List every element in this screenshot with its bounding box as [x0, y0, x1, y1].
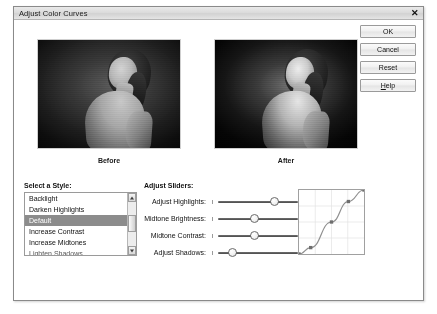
curve-control-point[interactable] — [347, 200, 350, 203]
slider-row-adjust-shadows: Adjust Shadows: — [144, 246, 304, 260]
style-listbox[interactable]: Backlight Darken Highlights Default Incr… — [24, 192, 137, 256]
slider-tick-min — [212, 200, 213, 204]
help-button-label-rest: elp — [386, 82, 395, 89]
slider-midtone-contrast[interactable] — [212, 229, 304, 243]
select-a-style-label: Select a Style: — [24, 182, 71, 189]
scrollbar-thumb[interactable] — [128, 215, 136, 232]
screen: Adjust Color Curves ✕ OK Cancel Reset He… — [0, 0, 437, 314]
style-list-scrollbar[interactable] — [127, 193, 136, 255]
style-item-lighten-shadows[interactable]: Lighten Shadows — [25, 248, 136, 256]
style-item-increase-contrast[interactable]: Increase Contrast — [25, 226, 136, 237]
scroll-down-button[interactable] — [128, 246, 136, 255]
tone-curve-svg[interactable] — [299, 190, 364, 254]
window-title: Adjust Color Curves — [19, 9, 88, 18]
slider-row-midtone-brightness: Midtone Brightness: — [144, 212, 304, 226]
ok-button[interactable]: OK — [360, 25, 416, 38]
slider-tick-min — [212, 251, 213, 255]
slider-knob[interactable] — [270, 197, 279, 206]
cancel-button[interactable]: Cancel — [360, 43, 416, 56]
reset-button[interactable]: Reset — [360, 61, 416, 74]
help-button[interactable]: Help — [360, 79, 416, 92]
adjust-sliders-label: Adjust Sliders: — [144, 182, 193, 189]
portrait-photo-before — [38, 40, 180, 148]
style-item-darken-highlights[interactable]: Darken Highlights — [25, 204, 136, 215]
scroll-up-button[interactable] — [128, 193, 136, 202]
slider-row-adjust-highlights: Adjust Highlights: — [144, 195, 304, 209]
after-caption: After — [214, 157, 358, 164]
slider-tick-min — [212, 217, 213, 221]
chevron-down-icon — [130, 249, 134, 252]
dialog-button-column: OK Cancel Reset Help — [360, 25, 416, 97]
tone-curve-graph[interactable] — [298, 189, 365, 255]
slider-adjust-shadows[interactable] — [212, 246, 304, 260]
slider-tick-min — [212, 234, 213, 238]
slider-adjust-highlights[interactable] — [212, 195, 304, 209]
slider-midtone-brightness[interactable] — [212, 212, 304, 226]
before-preview-image[interactable] — [37, 39, 181, 149]
after-preview-image[interactable] — [214, 39, 358, 149]
adjust-color-curves-dialog: Adjust Color Curves ✕ OK Cancel Reset He… — [13, 6, 424, 301]
curve-control-point[interactable] — [309, 246, 312, 249]
chevron-up-icon — [130, 196, 134, 199]
photo-grayscale-filter — [215, 40, 357, 148]
style-item-increase-midtones[interactable]: Increase Midtones — [25, 237, 136, 248]
close-icon[interactable]: ✕ — [409, 8, 420, 19]
slider-label-midtone-brightness: Midtone Brightness: — [144, 215, 206, 222]
slider-label-adjust-shadows: Adjust Shadows: — [144, 249, 206, 256]
curve-control-point[interactable] — [299, 252, 301, 254]
slider-row-midtone-contrast: Midtone Contrast: — [144, 229, 304, 243]
slider-knob[interactable] — [250, 231, 259, 240]
before-caption: Before — [37, 157, 181, 164]
portrait-photo-after — [215, 40, 357, 148]
slider-knob[interactable] — [250, 214, 259, 223]
title-bar[interactable]: Adjust Color Curves ✕ — [14, 7, 423, 20]
slider-track[interactable] — [218, 201, 298, 203]
slider-knob[interactable] — [228, 248, 237, 257]
style-item-default[interactable]: Default — [25, 215, 136, 226]
curve-control-point[interactable] — [362, 190, 364, 192]
photo-grayscale-filter — [38, 40, 180, 148]
curve-control-point[interactable] — [330, 220, 333, 223]
slider-label-midtone-contrast: Midtone Contrast: — [144, 232, 206, 239]
style-item-backlight[interactable]: Backlight — [25, 193, 136, 204]
slider-label-adjust-highlights: Adjust Highlights: — [144, 198, 206, 205]
